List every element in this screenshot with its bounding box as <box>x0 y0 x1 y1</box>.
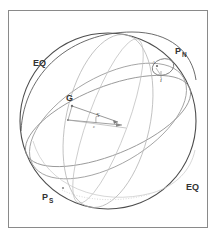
north-pole-letter: P <box>175 46 181 56</box>
meridian-circle <box>49 26 168 216</box>
label-vector-s: S <box>96 111 100 119</box>
back-hemisphere-arc <box>33 141 195 197</box>
south-pole-letter: P <box>42 192 48 202</box>
north-pole-subscript: N <box>182 51 187 58</box>
label-equator-lower-right: EQ <box>186 182 199 192</box>
label-north-pole: P N <box>175 46 187 58</box>
celestial-sphere-diagram: P N P S EQ EQ G S ε i A <box>0 0 219 238</box>
south-pole-subscript: S <box>49 197 54 204</box>
point-a-marker <box>156 65 158 67</box>
angle-i-tick <box>156 68 160 74</box>
label-angle-i: i <box>160 76 162 84</box>
label-point-g: G <box>66 93 73 103</box>
label-equator-upper-left: EQ <box>33 58 46 68</box>
point-ps-marker <box>62 187 64 189</box>
line-g-center <box>68 106 72 120</box>
hidden-dotted-arc <box>62 190 150 200</box>
label-south-pole: P S <box>42 192 54 204</box>
ecliptic-outer-arc <box>21 32 196 131</box>
label-angle-epsilon: ε <box>93 124 95 129</box>
